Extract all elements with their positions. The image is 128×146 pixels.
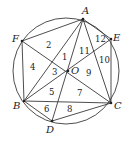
point-A [82, 18, 85, 21]
segment-FC [22, 41, 111, 103]
point-B [23, 100, 26, 103]
point-C [110, 102, 113, 105]
point-label-O: O [71, 65, 79, 76]
region-label-2: 2 [46, 40, 51, 50]
region-label-6: 6 [44, 104, 49, 114]
point-label-D: D [45, 124, 54, 135]
segment-DC [52, 103, 111, 121]
region-label-7: 7 [77, 88, 82, 98]
point-D [51, 120, 54, 123]
point-F [21, 40, 24, 43]
point-label-B: B [12, 100, 20, 111]
point-label-E: E [112, 32, 121, 43]
region-label-1: 1 [62, 52, 67, 62]
region-label-8: 8 [67, 104, 72, 114]
point-label-C: C [114, 100, 122, 111]
point-O [67, 70, 70, 73]
region-label-11: 11 [79, 46, 90, 56]
region-label-4: 4 [30, 62, 35, 72]
point-label-A: A [81, 5, 89, 16]
region-label-12: 12 [95, 34, 106, 44]
region-label-3: 3 [52, 67, 57, 77]
segment-AF [22, 19, 83, 41]
geometry-diagram: AECDBFO 123456789101112 [0, 0, 128, 146]
segment-FB [22, 41, 24, 101]
region-label-5: 5 [49, 87, 54, 97]
region-label-10: 10 [99, 55, 110, 65]
point-E [110, 38, 113, 41]
point-label-F: F [11, 33, 20, 44]
region-label-9: 9 [86, 68, 91, 78]
segment-BC [24, 101, 111, 103]
